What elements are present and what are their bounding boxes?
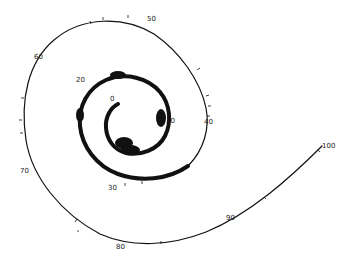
label-10: 10 bbox=[166, 117, 175, 125]
label-80: 80 bbox=[116, 243, 125, 251]
label-60: 60 bbox=[34, 53, 43, 61]
label-70: 70 bbox=[20, 167, 29, 175]
inner-spiral bbox=[80, 76, 188, 178]
spiral-diagram: 0 10 20 30 40 50 60 70 80 90 100 bbox=[0, 0, 351, 262]
label-100: 100 bbox=[322, 142, 335, 150]
stray-dot bbox=[77, 230, 79, 232]
label-30: 30 bbox=[108, 184, 117, 192]
label-0: 0 bbox=[110, 95, 114, 103]
label-20: 20 bbox=[76, 76, 85, 84]
spiral-labels: 0 10 20 30 40 50 60 70 80 90 100 bbox=[20, 15, 335, 251]
label-90: 90 bbox=[226, 214, 235, 222]
label-40: 40 bbox=[204, 118, 213, 126]
label-50: 50 bbox=[147, 15, 156, 23]
outer-spiral bbox=[24, 21, 322, 243]
